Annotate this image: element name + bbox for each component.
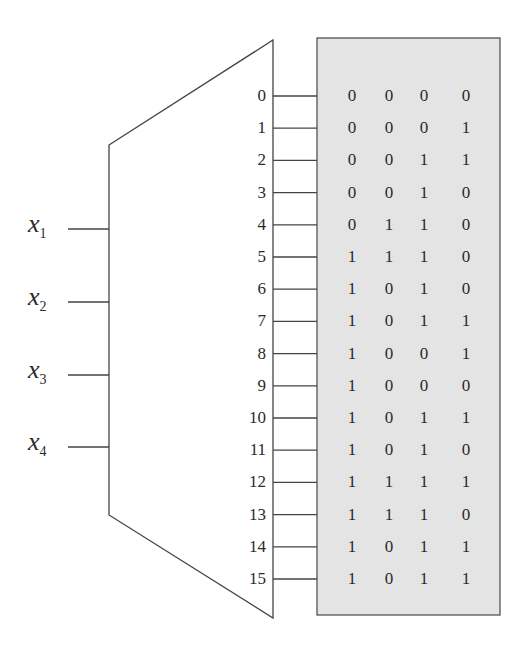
table-cell: 0 [381,184,397,201]
table-cell: 1 [344,248,360,265]
table-cell: 1 [458,119,474,136]
output-label: 5 [236,248,266,265]
output-label: 8 [236,345,266,362]
table-cell: 1 [381,506,397,523]
table-cell: 1 [416,538,432,555]
output-label: 12 [236,473,266,490]
table-cell: 0 [381,151,397,168]
output-label: 4 [236,216,266,233]
input-label: x1 [28,211,47,247]
table-cell: 0 [458,377,474,394]
table-cell: 1 [344,377,360,394]
table-cell: 0 [344,151,360,168]
input-variable: x [28,282,40,311]
output-label: 14 [236,538,266,555]
table-cell: 1 [458,473,474,490]
table-cell: 0 [381,312,397,329]
table-cell: 1 [381,216,397,233]
table-cell: 1 [416,151,432,168]
table-cell: 0 [416,87,432,104]
table-cell: 1 [344,312,360,329]
table-cell: 1 [416,216,432,233]
input-variable: x [28,209,40,238]
table-cell: 1 [344,538,360,555]
table-cell: 0 [381,441,397,458]
table-cell: 1 [416,409,432,426]
table-cell: 0 [344,119,360,136]
input-label: x4 [28,429,47,465]
table-cell: 0 [344,216,360,233]
input-subscript: 4 [40,444,47,459]
table-cell: 1 [344,280,360,297]
output-label: 13 [236,506,266,523]
table-cell: 0 [381,538,397,555]
table-cell: 0 [344,87,360,104]
table-cell: 0 [381,280,397,297]
table-cell: 0 [381,119,397,136]
table-cell: 1 [458,312,474,329]
table-cell: 0 [381,570,397,587]
table-cell: 0 [458,441,474,458]
table-cell: 1 [416,473,432,490]
table-cell: 1 [416,506,432,523]
output-label: 2 [236,151,266,168]
table-cell: 0 [458,280,474,297]
output-label: 1 [236,119,266,136]
table-cell: 1 [416,570,432,587]
output-label: 7 [236,312,266,329]
table-cell: 0 [344,184,360,201]
table-cell: 0 [381,345,397,362]
input-subscript: 2 [40,299,47,314]
table-cell: 1 [416,280,432,297]
table-cell: 0 [458,87,474,104]
input-variable: x [28,355,40,384]
output-label: 0 [236,87,266,104]
input-lines [68,229,109,447]
table-cell: 1 [458,570,474,587]
table-cell: 1 [381,473,397,490]
table-cell: 1 [458,538,474,555]
output-label: 6 [236,280,266,297]
input-variable: x [28,427,40,456]
table-cell: 1 [416,312,432,329]
output-label: 3 [236,184,266,201]
table-cell: 0 [458,184,474,201]
input-subscript: 3 [40,372,47,387]
output-label: 11 [236,441,266,458]
output-label: 10 [236,409,266,426]
table-cell: 1 [416,248,432,265]
output-lines [273,96,317,579]
table-cell: 0 [381,87,397,104]
table-cell: 1 [416,184,432,201]
output-label: 15 [236,570,266,587]
table-cell: 0 [381,377,397,394]
input-label: x3 [28,357,47,393]
table-cell: 1 [344,473,360,490]
table-cell: 1 [344,570,360,587]
table-cell: 0 [416,377,432,394]
input-subscript: 1 [40,226,47,241]
table-cell: 1 [458,151,474,168]
table-cell: 0 [381,409,397,426]
output-label: 9 [236,377,266,394]
table-cell: 0 [458,216,474,233]
table-cell: 1 [344,345,360,362]
table-cell: 1 [381,248,397,265]
table-cell: 0 [458,506,474,523]
table-cell: 1 [458,409,474,426]
table-cell: 1 [344,506,360,523]
table-cell: 1 [344,441,360,458]
table-cell: 0 [458,248,474,265]
table-cell: 1 [458,345,474,362]
table-cell: 1 [344,409,360,426]
table-cell: 1 [416,441,432,458]
table-cell: 0 [416,119,432,136]
input-label: x2 [28,284,47,320]
table-cell: 0 [416,345,432,362]
